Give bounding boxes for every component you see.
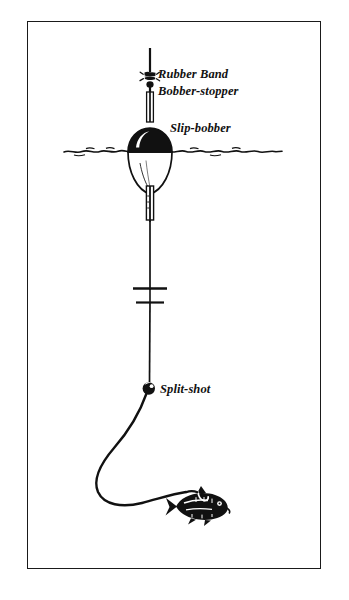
split-shot-sinker-icon: [143, 382, 155, 394]
waterline-icon: [64, 148, 282, 156]
label-split-shot: Split-shot: [160, 383, 210, 396]
label-slip-bobber: Slip-bobber: [170, 122, 231, 135]
baitfish-on-hook-icon: [166, 486, 230, 526]
slip-bobber-diagram: Rubber Band Bobber-stopper Slip-bobber S…: [0, 0, 349, 600]
leader-line: [96, 394, 186, 506]
label-bobber-stopper: Bobber-stopper: [158, 85, 239, 98]
bobber-stem-lower: [146, 186, 153, 222]
slip-bobber-float-icon: [128, 128, 172, 194]
fishing-line-lower: [150, 302, 151, 382]
rubber-band-bobber-stopper-icon: [140, 72, 160, 88]
bobber-stem-upper: [147, 87, 154, 122]
bead-stop-icon: [133, 288, 167, 303]
label-rubber-band: Rubber Band: [158, 68, 228, 81]
